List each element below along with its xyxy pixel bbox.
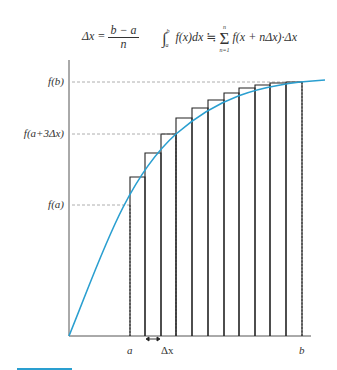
- riemann-formula: ∫ba f(x)dx ≒ nΣn=1 f(x + nΔx)·Δx: [162, 24, 297, 53]
- integral-lower: a: [165, 42, 168, 48]
- rectangle: [192, 108, 208, 336]
- rectangle: [208, 100, 224, 336]
- riemann-rectangles: [130, 82, 302, 336]
- rectangle: [286, 82, 302, 336]
- function-curve: [69, 80, 325, 336]
- integrand: f(x)dx ≒: [175, 30, 216, 44]
- rectangle: [224, 93, 239, 336]
- rectangle: [176, 118, 192, 336]
- x-label-delta-x: Δx: [161, 344, 174, 356]
- summand: f(x + nΔx)·Δx: [233, 30, 298, 44]
- y-label-fb: f(b): [0, 75, 64, 87]
- y-label-fa3dx: f(a+3Δx): [0, 127, 64, 139]
- rectangle: [145, 153, 161, 336]
- rectangle: [239, 88, 255, 336]
- delta-x-arrow: [146, 337, 160, 341]
- sigma-symbol: Σ: [220, 30, 230, 47]
- fraction-denominator: n: [121, 38, 127, 51]
- delta-x-formula: Δx =b − an: [82, 24, 139, 51]
- sum-lower: n=1: [219, 47, 229, 53]
- guide-lines: [72, 82, 302, 205]
- rectangle: [255, 85, 270, 336]
- riemann-diagram: [0, 0, 337, 370]
- x-label-b: b: [299, 344, 305, 356]
- rectangle: [161, 134, 176, 336]
- x-label-a: a: [127, 344, 133, 356]
- integral-upper: b: [166, 28, 169, 34]
- rectangle: [270, 83, 286, 336]
- fraction-numerator: b − a: [108, 24, 138, 38]
- rectangle: [130, 177, 145, 336]
- delta-x-lhs: Δx =: [82, 29, 105, 43]
- dashed-verticals: [130, 82, 302, 336]
- y-label-fa: f(a): [0, 198, 64, 210]
